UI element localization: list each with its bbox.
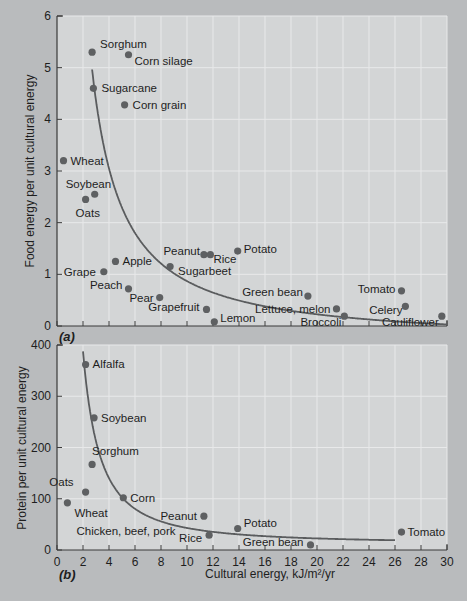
data-point [82, 361, 89, 368]
data-point [307, 541, 314, 548]
data-point [167, 263, 174, 270]
data-point [156, 294, 163, 301]
x-tick-label: 28 [414, 555, 428, 569]
point-label: Wheat [74, 507, 108, 519]
data-point [438, 313, 445, 320]
point-label: Peanut [160, 510, 197, 522]
panel-a-food-energy: 0123456SorghumCorn silageSugarcaneCorn g… [44, 9, 447, 333]
point-label: Tomato [408, 526, 446, 538]
y-tick-label: 5 [44, 61, 51, 75]
data-point [206, 532, 213, 539]
data-point [234, 247, 241, 254]
data-point [82, 488, 89, 495]
point-label: Potato [244, 243, 277, 255]
data-point [60, 157, 67, 164]
y-tick-label: 400 [31, 338, 51, 352]
point-label: Oats [49, 476, 74, 488]
point-label: Grape [64, 266, 96, 278]
data-point [91, 191, 98, 198]
x-tick-label: 24 [362, 555, 376, 569]
x-tick-label: 2 [80, 555, 87, 569]
x-tick-label: 30 [440, 555, 454, 569]
y-tick-label: 3 [44, 164, 51, 178]
y-tick-label: 0 [44, 543, 51, 557]
data-point [64, 499, 71, 506]
data-point [120, 494, 127, 501]
point-label: Apple [123, 255, 152, 267]
point-label: Rice [213, 253, 236, 265]
y-tick-label: 100 [31, 492, 51, 506]
data-point [341, 313, 348, 320]
point-label: Sugarbeet [178, 265, 232, 277]
point-label: Lettuce, melon [255, 303, 330, 315]
panel-a-label: (a) [59, 329, 75, 344]
point-label: Oats [76, 207, 101, 219]
data-point [90, 85, 97, 92]
point-label: Peach [90, 279, 123, 291]
x-tick-label: 26 [388, 555, 402, 569]
data-point [100, 268, 107, 275]
panel-b-y-axis-title: Protein per unit cultural energy [15, 366, 29, 529]
x-tick-label: 10 [180, 555, 194, 569]
data-point [89, 461, 96, 468]
data-point [82, 196, 89, 203]
data-point [398, 287, 405, 294]
point-label: Lemon [220, 312, 255, 324]
point-label: Potato [244, 517, 277, 529]
panel-a-y-axis-title: Food energy per unit cultural energy [23, 75, 37, 268]
data-point [200, 513, 207, 520]
data-point [304, 292, 311, 299]
point-label: Wheat [71, 155, 105, 167]
point-label: Corn grain [133, 99, 187, 111]
point-label: Sorghum [92, 445, 139, 457]
point-label: Soybean [101, 412, 146, 424]
data-point [90, 414, 97, 421]
point-label: Sugarcane [101, 82, 157, 94]
point-label: Soybean [66, 178, 111, 190]
point-label: Rice [179, 532, 202, 544]
point-label: Alfalfa [93, 358, 126, 370]
y-tick-label: 6 [44, 9, 51, 23]
y-tick-label: 1 [44, 267, 51, 281]
data-point [234, 525, 241, 532]
data-point [112, 258, 119, 265]
data-point [398, 528, 405, 535]
panel-b-label: (b) [59, 567, 76, 582]
data-point [211, 318, 218, 325]
point-label: Peanut [163, 245, 200, 257]
point-label: Celery [369, 304, 402, 316]
data-point [125, 51, 132, 58]
data-point [89, 49, 96, 56]
y-tick-label: 4 [44, 112, 51, 126]
data-point [203, 306, 210, 313]
y-tick-label: 0 [44, 319, 51, 333]
point-label: Green bean [242, 286, 303, 298]
data-point [121, 101, 128, 108]
data-point [333, 305, 340, 312]
point-label: Green bean [243, 536, 304, 548]
point-label: Grapefruit [148, 301, 200, 313]
point-label: Tomato [358, 283, 396, 295]
point-label: Broccoli [300, 316, 341, 328]
point-label: Cauliflower [382, 316, 439, 328]
point-label: Corn [130, 492, 155, 504]
x-tick-label: 6 [132, 555, 139, 569]
panel-b-protein: 0246810121416182022242628300100200300400… [31, 338, 454, 569]
x-tick-label: 22 [336, 555, 350, 569]
point-label: Chicken, beef, pork [77, 525, 176, 537]
point-label: Sorghum [100, 38, 147, 50]
x-tick-label: 4 [106, 555, 113, 569]
y-tick-label: 300 [31, 389, 51, 403]
data-point [402, 303, 409, 310]
y-tick-label: 2 [44, 216, 51, 230]
figure: 0123456SorghumCorn silageSugarcaneCorn g… [0, 0, 467, 601]
point-label: Corn silage [135, 55, 193, 67]
x-axis-title: Cultural energy, kJ/m²/yr [205, 567, 335, 581]
y-tick-label: 200 [31, 441, 51, 455]
data-point [200, 251, 207, 258]
x-tick-label: 8 [158, 555, 165, 569]
